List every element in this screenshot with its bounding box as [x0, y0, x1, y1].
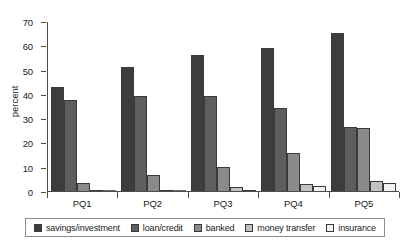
- y-tick-mark: [41, 22, 46, 23]
- legend-item[interactable]: savings/investment: [34, 223, 120, 233]
- x-tick-label: PQ1: [47, 198, 117, 209]
- bar: [383, 183, 396, 192]
- y-tick-label: 20: [23, 138, 33, 149]
- bar-group: [261, 22, 326, 191]
- x-tick-mark: [329, 192, 330, 198]
- bar: [121, 67, 134, 191]
- legend-label: loan/credit: [143, 223, 183, 233]
- y-tick-label: 10: [23, 162, 33, 173]
- bars-layer: [48, 22, 399, 191]
- bar-group: [121, 22, 186, 191]
- bar: [51, 87, 64, 191]
- legend-swatch-icon: [245, 224, 253, 232]
- bar: [191, 55, 204, 191]
- bar: [287, 153, 300, 191]
- bar: [230, 187, 243, 191]
- legend-label: savings/investment: [46, 223, 120, 233]
- bar: [90, 190, 103, 191]
- bar-group: [191, 22, 256, 191]
- y-tick-mark: [41, 143, 46, 144]
- x-tick-mark: [399, 192, 400, 198]
- plot-area: [47, 22, 399, 192]
- chart-legend: savings/investmentloan/creditbankedmoney…: [25, 218, 385, 237]
- bar: [134, 96, 147, 191]
- y-tick-label: 0: [28, 187, 33, 198]
- bar-group: [331, 22, 396, 191]
- y-axis-tick-labels: 010203040506070: [0, 22, 40, 192]
- bar-group: [51, 22, 116, 191]
- legend-item[interactable]: money transfer: [245, 223, 315, 233]
- x-tick-label: PQ2: [117, 198, 187, 209]
- x-axis-tick-labels: PQ1PQ2PQ3PQ4PQ5: [47, 198, 399, 209]
- x-tick-label: PQ3: [188, 198, 258, 209]
- legend-swatch-icon: [131, 224, 139, 232]
- legend-swatch-icon: [34, 224, 42, 232]
- bar: [103, 190, 116, 191]
- y-tick-mark: [41, 119, 46, 120]
- bar: [300, 184, 313, 191]
- bar: [243, 190, 256, 191]
- bar: [313, 186, 326, 191]
- x-tick-label: PQ4: [258, 198, 328, 209]
- x-tick-mark: [258, 192, 259, 198]
- legend-label: banked: [206, 223, 235, 233]
- y-tick-mark: [41, 192, 46, 193]
- bar: [357, 128, 370, 191]
- bar: [274, 108, 287, 191]
- legend-label: money transfer: [257, 223, 315, 233]
- bar: [64, 100, 77, 191]
- bar: [77, 183, 90, 192]
- y-tick-label: 60: [23, 41, 33, 52]
- y-tick-mark: [41, 168, 46, 169]
- legend-swatch-icon: [326, 224, 334, 232]
- bar: [204, 96, 217, 191]
- bar: [173, 190, 186, 191]
- legend-label: insurance: [338, 223, 376, 233]
- x-tick-mark: [188, 192, 189, 198]
- legend-item[interactable]: loan/credit: [131, 223, 183, 233]
- bar-chart: percent 010203040506070 PQ1PQ2PQ3PQ4PQ5 …: [0, 0, 410, 244]
- y-tick-mark: [41, 46, 46, 47]
- y-tick-mark: [41, 95, 46, 96]
- bar: [370, 181, 383, 191]
- y-tick-mark: [41, 71, 46, 72]
- x-tick-mark: [117, 192, 118, 198]
- x-tick-mark: [47, 192, 48, 198]
- legend-swatch-icon: [194, 224, 202, 232]
- y-tick-label: 50: [23, 65, 33, 76]
- x-tick-label: PQ5: [329, 198, 399, 209]
- y-tick-label: 30: [23, 114, 33, 125]
- y-tick-label: 40: [23, 89, 33, 100]
- bar: [160, 190, 173, 191]
- bar: [261, 48, 274, 191]
- bar: [331, 33, 344, 191]
- y-tick-label: 70: [23, 17, 33, 28]
- bar: [147, 175, 160, 191]
- bar: [217, 167, 230, 191]
- bar: [344, 127, 357, 191]
- legend-item[interactable]: insurance: [326, 223, 376, 233]
- legend-item[interactable]: banked: [194, 223, 235, 233]
